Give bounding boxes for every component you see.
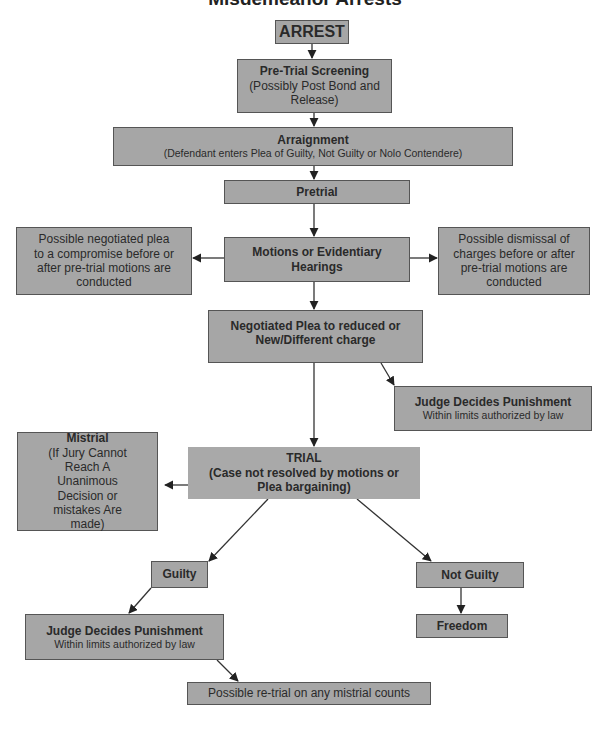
node-motions-label: Motions or Evidentiary Hearings	[225, 245, 409, 274]
node-retrial: Possible re-trial on any mistrial counts	[187, 682, 431, 705]
node-screening-subtitle: (Possibly Post Bond and Release)	[238, 79, 391, 108]
edge-judge-lower-retrial	[217, 660, 238, 681]
node-negotiated-plea-compromise: Possible negotiated plea to a compromise…	[16, 227, 192, 295]
edge-trial-not-guilty	[357, 499, 431, 561]
node-guilty: Guilty	[151, 561, 208, 588]
node-judge-upper-subtitle: Within limits authorized by law	[423, 409, 564, 422]
node-arrest-label: ARREST	[279, 22, 345, 41]
node-pretrial-label: Pretrial	[296, 185, 337, 199]
node-freedom: Freedom	[416, 614, 508, 638]
edge-guilty-judge-lower	[129, 588, 151, 613]
node-dismissal: Possible dismissal of charges before or …	[438, 227, 590, 295]
node-screening-title: Pre-Trial Screening	[260, 64, 369, 78]
node-judge-upper-title: Judge Decides Punishment	[415, 395, 572, 409]
edge-trial-guilty	[209, 499, 268, 561]
node-judge-lower-title: Judge Decides Punishment	[46, 624, 203, 638]
node-trial-subtitle: (Case not resolved by motions or Plea ba…	[188, 466, 420, 495]
node-arrest: ARREST	[275, 20, 349, 44]
edge-plea-judge-upper	[381, 363, 394, 385]
node-negotiated-plea: Negotiated Plea to reduced or New/Differ…	[208, 310, 423, 363]
node-arraignment-subtitle: (Defendant enters Plea of Guilty, Not Gu…	[164, 147, 463, 160]
node-guilty-label: Guilty	[162, 567, 196, 581]
node-compromise-label: Possible negotiated plea to a compromise…	[17, 232, 191, 290]
node-pretrial-screening: Pre-Trial Screening (Possibly Post Bond …	[237, 59, 392, 113]
node-dismissal-label: Possible dismissal of charges before or …	[439, 232, 589, 290]
node-mistrial-subtitle: (If Jury Cannot Reach A Unanimous Decisi…	[18, 446, 157, 532]
node-pretrial: Pretrial	[224, 180, 410, 204]
node-arraignment: Arraignment (Defendant enters Plea of Gu…	[113, 127, 513, 166]
node-retrial-label: Possible re-trial on any mistrial counts	[208, 686, 410, 700]
node-mistrial-title: Mistrial	[66, 431, 108, 445]
node-not-guilty-label: Not Guilty	[441, 568, 498, 582]
node-motions: Motions or Evidentiary Hearings	[224, 237, 410, 282]
node-not-guilty: Not Guilty	[416, 562, 524, 588]
node-judge-upper: Judge Decides Punishment Within limits a…	[394, 386, 592, 431]
node-trial-title: TRIAL	[286, 451, 321, 465]
node-judge-lower: Judge Decides Punishment Within limits a…	[25, 614, 224, 660]
node-judge-lower-subtitle: Within limits authorized by law	[54, 638, 195, 651]
node-negotiated-plea-label: Negotiated Plea to reduced or New/Differ…	[209, 319, 422, 348]
node-freedom-label: Freedom	[437, 619, 488, 633]
node-mistrial: Mistrial (If Jury Cannot Reach A Unanimo…	[17, 432, 158, 531]
node-arraignment-title: Arraignment	[277, 133, 348, 147]
node-trial: TRIAL (Case not resolved by motions or P…	[188, 447, 420, 499]
